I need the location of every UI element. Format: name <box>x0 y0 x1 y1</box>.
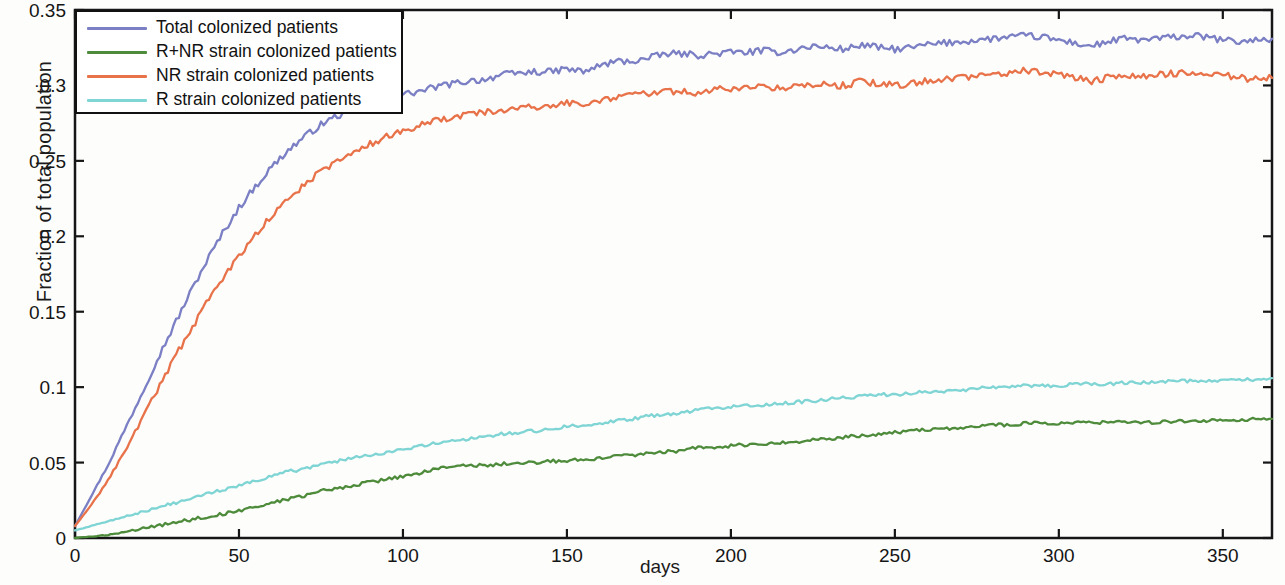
x-tick-label: 100 <box>387 545 419 566</box>
legend-swatch-nr <box>87 75 147 78</box>
legend-item-total: Total colonized patients <box>77 16 401 40</box>
legend-swatch-rnr <box>87 51 147 54</box>
y-axis-title: Fraction of total population <box>33 42 56 322</box>
x-tick-label: 0 <box>70 545 81 566</box>
x-axis-title: days <box>560 556 760 578</box>
x-tick-label: 250 <box>879 545 911 566</box>
legend-label-total: Total colonized patients <box>156 19 338 37</box>
x-tick-label: 350 <box>1207 545 1239 566</box>
x-tick-label: 50 <box>228 545 249 566</box>
x-tick-label: 300 <box>1043 545 1075 566</box>
legend-item-rnr: R+NR strain colonized patients <box>77 40 401 64</box>
legend-item-r: R strain colonized patients <box>77 88 401 112</box>
series-line-1 <box>75 418 1272 538</box>
series-line-2 <box>75 68 1272 526</box>
legend-swatch-total <box>87 27 147 30</box>
legend: Total colonized patients R+NR strain col… <box>75 10 403 114</box>
legend-label-rnr: R+NR strain colonized patients <box>156 43 397 61</box>
legend-item-nr: NR strain colonized patients <box>77 64 401 88</box>
legend-swatch-r <box>87 99 147 102</box>
y-tick-label: 0.05 <box>29 453 66 474</box>
chart-figure: 05010015020025030035000.050.10.150.20.25… <box>0 0 1285 585</box>
y-tick-label: 0.1 <box>40 377 66 398</box>
y-tick-label: 0 <box>55 528 66 549</box>
y-tick-label: 0.35 <box>29 0 66 21</box>
legend-label-nr: NR strain colonized patients <box>156 67 374 85</box>
legend-label-r: R strain colonized patients <box>156 91 361 109</box>
